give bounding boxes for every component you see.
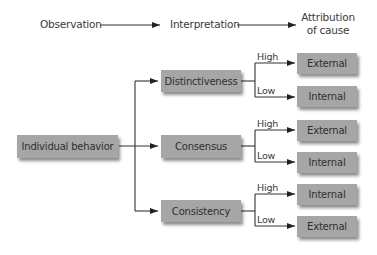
consensus-low-label: Low bbox=[257, 150, 275, 161]
header-attribution-line1: Attribution bbox=[300, 11, 356, 24]
result-box-consistency-high: Internal bbox=[297, 184, 357, 205]
result-box-consensus-low: Internal bbox=[297, 152, 357, 173]
distinctiveness-box: Distinctiveness bbox=[161, 70, 241, 92]
consistency-high-label: High bbox=[257, 182, 278, 193]
header-attribution-line2: of cause bbox=[300, 24, 356, 37]
consistency-low-label: Low bbox=[257, 214, 275, 225]
consensus-high-label: High bbox=[257, 118, 278, 129]
result-box-distinctiveness-high: External bbox=[297, 53, 357, 74]
distinctiveness-high-label: High bbox=[257, 51, 278, 62]
result-box-distinctiveness-low: Internal bbox=[297, 86, 357, 107]
distinctiveness-low-label: Low bbox=[257, 85, 275, 96]
header-interpretation: Interpretation bbox=[170, 18, 240, 30]
individual-behavior-box: Individual behavior bbox=[17, 135, 118, 158]
result-box-consistency-low: External bbox=[297, 216, 357, 237]
attribution-diagram: Observation Interpretation Attribution o… bbox=[0, 0, 377, 255]
header-observation: Observation bbox=[40, 18, 102, 30]
header-attribution: Attribution of cause bbox=[300, 11, 356, 37]
consensus-box: Consensus bbox=[161, 135, 241, 158]
result-box-consensus-high: External bbox=[297, 120, 357, 141]
consistency-box: Consistency bbox=[161, 200, 241, 222]
